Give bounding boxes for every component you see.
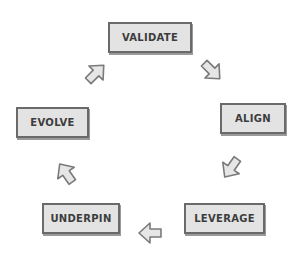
cycle-diagram: VALIDATE ALIGN LEVERAGE UNDERPIN EVOLVE bbox=[0, 0, 296, 269]
node-underpin: UNDERPIN bbox=[42, 203, 120, 234]
node-leverage: LEVERAGE bbox=[184, 203, 265, 234]
node-label: EVOLVE bbox=[30, 117, 74, 128]
arrow-left-icon bbox=[137, 220, 163, 246]
arrow-down-left-icon bbox=[213, 150, 249, 186]
node-align: ALIGN bbox=[220, 103, 286, 134]
arrow-down-right-icon bbox=[194, 53, 231, 90]
arrow-up-left-icon bbox=[48, 155, 84, 191]
node-label: ALIGN bbox=[235, 113, 271, 124]
arrow-up-right-icon bbox=[78, 55, 115, 92]
node-label: UNDERPIN bbox=[50, 213, 111, 224]
node-label: VALIDATE bbox=[122, 32, 178, 43]
node-label: LEVERAGE bbox=[194, 213, 255, 224]
node-evolve: EVOLVE bbox=[16, 107, 89, 138]
node-validate: VALIDATE bbox=[108, 22, 192, 53]
